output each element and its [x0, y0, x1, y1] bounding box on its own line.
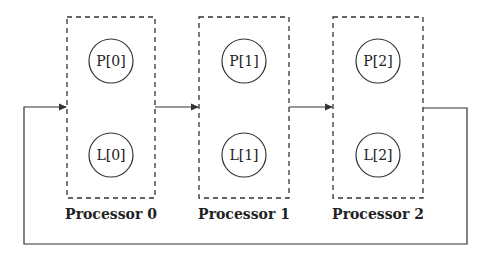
processor-0: P[0] L[0] Processor 0 [65, 17, 157, 222]
l-node-1-label: L[1] [229, 147, 258, 163]
processor-0-box [67, 17, 155, 198]
ring-return-arrow [24, 107, 467, 244]
processor-2: P[2] L[2] Processor 2 [332, 17, 424, 222]
ring-diagram: P[0] L[0] Processor 0 P[1] L[1] Processo… [0, 0, 489, 260]
processor-1: P[1] L[1] Processor 1 [198, 17, 290, 222]
processor-2-box [333, 17, 423, 198]
l-node-2-label: L[2] [363, 147, 392, 163]
processor-1-box [199, 17, 289, 198]
p-node-2-label: P[2] [363, 53, 392, 69]
processor-1-label: Processor 1 [198, 206, 290, 222]
processor-2-label: Processor 2 [332, 206, 424, 222]
p-node-0-label: P[0] [96, 53, 125, 69]
p-node-1-label: P[1] [229, 53, 258, 69]
l-node-0-label: L[0] [96, 147, 125, 163]
processor-0-label: Processor 0 [65, 206, 157, 222]
